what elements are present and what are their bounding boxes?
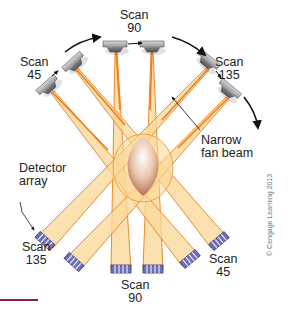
tube-scan135-b [214,78,243,105]
label-narrow-fan-beam: Narrow fan beam [201,134,253,160]
detector-scan90-a [111,265,131,273]
label-scan45-bottom: Scan 45 [209,253,238,279]
tube-scan45-a [62,50,91,78]
arc-arrow-1 [65,37,100,52]
detector-array-leader [20,202,34,230]
footer-rule [0,299,38,301]
label-scan45-top: Scan 45 [20,56,49,82]
arc-arrow-5 [52,71,58,76]
arc-arrow-4 [244,97,258,128]
tube-scan90-a [103,41,129,55]
label-detector-array: Detector array [19,162,66,188]
detector-arrays [35,231,229,273]
tube-scan90-b [140,41,166,55]
narrow-fan-beam-leader [172,97,200,130]
copyright-notice: © Cengage Learning 2013 [266,174,273,256]
label-scan90-bottom: Scan 90 [121,279,150,305]
patient-cross-section [113,134,173,202]
label-scan135-bottom: Scan 135 [22,241,51,267]
label-scan135-top: Scan 135 [215,56,244,82]
detector-scan90-b [143,265,163,273]
label-scan90-top: Scan 90 [120,9,149,35]
ct-scan-diagram: Scan 90 Scan 45 Scan 135 Narrow fan beam… [0,0,288,311]
